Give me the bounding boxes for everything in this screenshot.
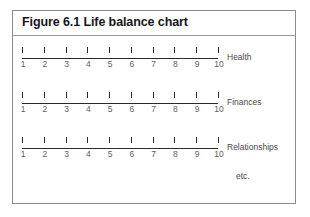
- scale-tick-label: 9: [190, 149, 204, 159]
- scale-tick: [174, 92, 175, 98]
- scale-tick: [44, 137, 45, 143]
- scale-tick-label: 2: [38, 149, 52, 159]
- scale-tick: [44, 47, 45, 53]
- scale-tick-label: 8: [168, 149, 182, 159]
- scale-tick: [218, 92, 219, 98]
- scale-tick: [153, 92, 154, 98]
- scale-row: 12345678910 Health: [13, 47, 295, 77]
- scale-tick-label: 9: [190, 104, 204, 114]
- scale-tick-label: 5: [103, 149, 117, 159]
- scale-tick: [153, 137, 154, 143]
- scale-tick-label: 3: [60, 59, 74, 69]
- scale-tick-label: 5: [103, 59, 117, 69]
- scale-tick-label: 1: [16, 104, 30, 114]
- scale-tick-label: 7: [147, 59, 161, 69]
- figure-title-bar: Figure 6.1 Life balance chart: [13, 11, 295, 36]
- scale-tick: [131, 47, 132, 53]
- scale-tick: [174, 47, 175, 53]
- scale-tick-label: 4: [81, 149, 95, 159]
- scale-tick-label: 5: [103, 104, 117, 114]
- figure-card: Figure 6.1 Life balance chart 1234567891…: [12, 10, 296, 204]
- scale-tick-label: 9: [190, 59, 204, 69]
- scale-tick: [109, 92, 110, 98]
- scale-tick-label: 6: [125, 149, 139, 159]
- scale-tick-label: 3: [60, 149, 74, 159]
- scale-tick-label: 2: [38, 59, 52, 69]
- scale-tick-label: 10: [212, 59, 226, 69]
- scale-tick: [66, 47, 67, 53]
- scale-tick: [218, 137, 219, 143]
- scale-tick: [87, 47, 88, 53]
- scale-tick-label: 1: [16, 59, 30, 69]
- scale-tick-label: 7: [147, 149, 161, 159]
- scale-tick: [196, 137, 197, 143]
- scale-tick-label: 6: [125, 59, 139, 69]
- page-title: Figure 6.1 Life balance chart: [22, 15, 188, 29]
- scale-tick: [66, 137, 67, 143]
- scale-tick: [109, 137, 110, 143]
- scale-label: Relationships: [227, 142, 278, 152]
- scale-tick-label: 7: [147, 104, 161, 114]
- scale-tick-label: 8: [168, 59, 182, 69]
- scale-tick-label: 2: [38, 104, 52, 114]
- scale-label: Finances: [227, 97, 262, 107]
- scale-tick: [218, 47, 219, 53]
- scale-row: 12345678910 Finances: [13, 92, 295, 122]
- scale-tick: [131, 137, 132, 143]
- scale-tick: [131, 92, 132, 98]
- scale-tick-label: 1: [16, 149, 30, 159]
- scale-row: 12345678910 Relationships: [13, 137, 295, 167]
- scale-tick: [66, 92, 67, 98]
- scale-tick: [196, 92, 197, 98]
- scale-tick-label: 3: [60, 104, 74, 114]
- scale-tick-label: 10: [212, 149, 226, 159]
- scale-tick: [174, 137, 175, 143]
- scale-tick: [22, 47, 23, 53]
- scale-tick-label: 8: [168, 104, 182, 114]
- scale-tick: [87, 92, 88, 98]
- scale-tick-label: 6: [125, 104, 139, 114]
- scale-tick: [153, 47, 154, 53]
- scale-tick-label: 10: [212, 104, 226, 114]
- scale-tick: [87, 137, 88, 143]
- scale-tick: [196, 47, 197, 53]
- scale-tick: [109, 47, 110, 53]
- etc-label: etc.: [236, 171, 250, 181]
- scale-label: Health: [227, 52, 252, 62]
- scale-tick-label: 4: [81, 104, 95, 114]
- scale-tick: [22, 92, 23, 98]
- scale-tick: [22, 137, 23, 143]
- scale-tick: [44, 92, 45, 98]
- scale-tick-label: 4: [81, 59, 95, 69]
